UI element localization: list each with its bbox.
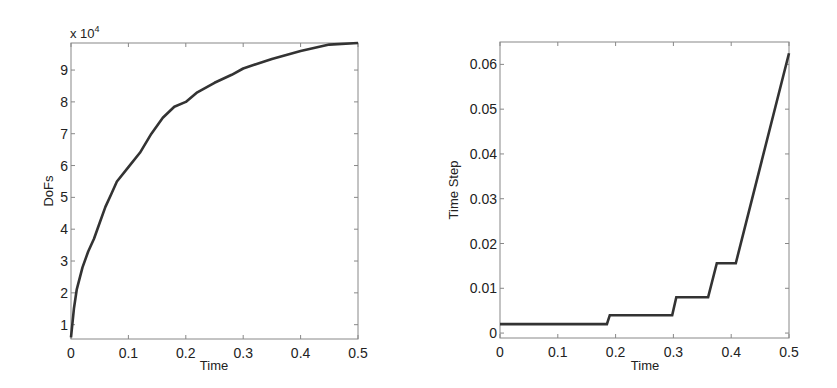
x-tick-label: 0.4: [291, 345, 311, 361]
y-tick-label: 0.06: [470, 56, 497, 72]
y-tick-label: 7: [60, 126, 68, 142]
y-tick-label: 6: [60, 158, 68, 174]
dofs-line: [71, 43, 358, 337]
x-tick-label: 0: [496, 344, 504, 360]
x-tick-label: 0.5: [348, 345, 368, 361]
x-tick-label: 0.2: [606, 344, 626, 360]
y-tick-label: 2: [60, 285, 68, 301]
y-axis-label: Time Step: [446, 161, 461, 220]
x-tick-label: 0: [67, 345, 75, 361]
y-tick-label: 0.03: [470, 191, 497, 207]
y-tick-label: 4: [60, 221, 68, 237]
y-tick-label: 0.02: [470, 236, 497, 252]
timestep-line: [500, 53, 789, 324]
x-tick-label: 0.2: [176, 345, 196, 361]
y-tick-label: 0.04: [470, 146, 497, 162]
x-tick-label: 0.5: [779, 344, 799, 360]
x-tick-label: 0.3: [233, 345, 253, 361]
dofs-chart: 00.10.20.30.40.5123456789 x 104 Time DoF…: [41, 24, 368, 373]
x-axis-label: Time: [200, 358, 228, 373]
figure: 00.10.20.30.40.5123456789 x 104 Time DoF…: [0, 0, 837, 388]
x-tick-label: 0.1: [548, 344, 568, 360]
y-tick-label: 5: [60, 189, 68, 205]
y-axis-label: DoFs: [41, 175, 56, 207]
x-tick-label: 0.3: [664, 344, 684, 360]
y-tick-label: 0.01: [470, 280, 497, 296]
plot-frame: [500, 42, 789, 338]
y-tick-label: 8: [60, 94, 68, 110]
y-tick-label: 0: [489, 325, 497, 341]
y-multiplier-label: x 104: [70, 24, 100, 41]
x-tick-label: 0.1: [119, 345, 139, 361]
tick-labels: 00.10.20.30.40.5123456789: [60, 62, 368, 361]
y-tick-label: 9: [60, 62, 68, 78]
y-tick-label: 0.05: [470, 101, 497, 117]
x-tick-label: 0.4: [721, 344, 741, 360]
y-tick-label: 1: [60, 317, 68, 333]
y-tick-label: 3: [60, 253, 68, 269]
x-axis-label: Time: [631, 358, 659, 373]
timestep-chart: 00.10.20.30.40.500.010.020.030.040.050.0…: [446, 42, 799, 373]
axis-ticks: [500, 42, 789, 338]
